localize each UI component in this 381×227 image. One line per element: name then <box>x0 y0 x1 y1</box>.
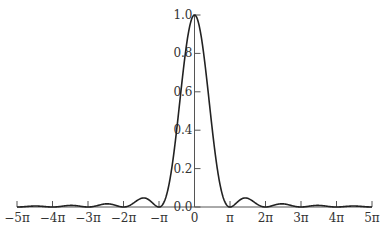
x-tick-label: 4π <box>329 211 345 225</box>
axes <box>17 15 372 207</box>
y-tick-label: 0.8 <box>173 46 192 60</box>
y-tick-label: 0.6 <box>173 85 192 99</box>
sinc-squared-chart: −5π−4π−3π−2π−π0π2π3π4π5π 0.00.20.40.60.8… <box>0 0 381 227</box>
x-tick-label: 5π <box>364 211 380 225</box>
x-tick-label: −π <box>150 211 168 225</box>
x-tick-label: π <box>226 211 234 225</box>
x-tick-label: −2π <box>111 211 137 225</box>
y-tick-label: 0.0 <box>173 200 192 214</box>
x-tick-label: 3π <box>293 211 309 225</box>
y-tick-label: 1.0 <box>173 8 192 22</box>
y-tick-label: 0.2 <box>173 162 192 176</box>
x-tick-label: −5π <box>4 211 30 225</box>
x-tick-label: −4π <box>40 211 66 225</box>
x-tick-label: −3π <box>75 211 101 225</box>
x-tick-label: 2π <box>258 211 274 225</box>
